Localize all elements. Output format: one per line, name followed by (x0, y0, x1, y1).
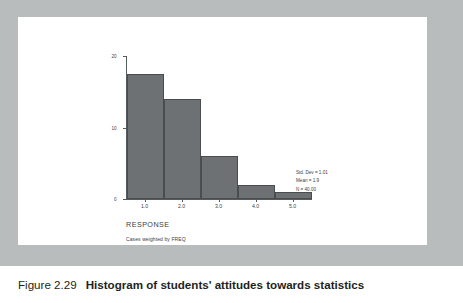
n-text: N = 40.00 (296, 186, 328, 194)
x-tick-label: 1.0 (141, 203, 148, 209)
x-axis-title: RESPONSE (126, 220, 170, 229)
bar-group (127, 56, 312, 199)
x-tick (293, 199, 294, 202)
statistics-annotation: Std. Dev = 1.01 Mean = 1.9 N = 40.00 (296, 169, 328, 194)
x-tick (182, 199, 183, 202)
histogram-chart: 01020 1.02.03.04.05.0 Std. Dev = 1.01 Me… (18, 17, 427, 245)
mean-text: Mean = 1.9 (296, 177, 328, 185)
y-tick (123, 199, 126, 200)
y-tick-label: 10 (111, 125, 116, 130)
y-tick-label: 0 (114, 197, 117, 202)
x-tick (256, 199, 257, 202)
figure-frame: 01020 1.02.03.04.05.0 Std. Dev = 1.01 Me… (0, 0, 463, 266)
y-tick-label: 20 (111, 54, 116, 59)
histogram-bar (238, 185, 275, 199)
histogram-bar (201, 156, 238, 199)
figure-caption: Figure 2.29Histogram of students' attitu… (18, 278, 364, 291)
figure-title: Histogram of students' attitudes towards… (86, 278, 364, 291)
x-tick-label: 2.0 (178, 203, 185, 209)
histogram-bar (127, 74, 164, 199)
x-tick (145, 199, 146, 202)
y-tick (123, 56, 126, 57)
x-tick-label: 5.0 (289, 203, 296, 209)
chart-axes: 01020 1.02.03.04.05.0 (126, 56, 312, 199)
y-tick (123, 128, 126, 129)
x-tick (219, 199, 220, 202)
figure-number: Figure 2.29 (18, 278, 77, 291)
weight-note: Cases weighted by FREQ (126, 236, 186, 242)
x-tick-label: 3.0 (215, 203, 222, 209)
x-tick-label: 4.0 (252, 203, 259, 209)
histogram-bar (164, 99, 201, 199)
std-dev-text: Std. Dev = 1.01 (296, 169, 328, 177)
